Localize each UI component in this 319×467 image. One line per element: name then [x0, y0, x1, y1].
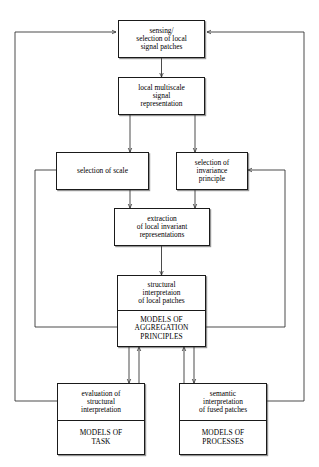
node-sensing-line-3: signal patches	[141, 43, 183, 51]
node-evaluation-task-stack: evaluation of structural interpretation …	[57, 383, 145, 455]
node-aggregation-line-3: PRINCIPLES	[140, 333, 182, 341]
node-sensing-selection: sensing/ selection of local signal patch…	[118, 20, 205, 58]
flowchart-diagram: sensing/ selection of local signal patch…	[0, 0, 319, 467]
feedback-semantic-to-sensing	[207, 32, 304, 401]
node-semantic-line-3: of fused patches	[199, 406, 247, 414]
node-models-task-line-2: TASK	[91, 438, 110, 446]
node-evaluation-structural-interpretation: evaluation of structural interpretation	[57, 383, 145, 421]
node-extraction-line-3: representations	[140, 231, 185, 239]
feedback-aggregation-to-scale	[35, 170, 117, 327]
node-structural-line-3: of local patches	[138, 297, 184, 305]
node-local-multiscale-representation: local multiscale signal representation	[118, 77, 205, 115]
node-models-processes-line-2: PROCESSES	[202, 438, 244, 446]
node-models-of-processes: MODELS OF PROCESSES	[179, 421, 267, 455]
node-extraction-local-invariant: extraction of local invariant representa…	[114, 208, 210, 246]
node-selection-of-scale: selection of scale	[56, 152, 149, 190]
node-semantic-processes-stack: semantic interpretation of fused patches…	[179, 383, 267, 455]
feedback-evaluation-to-sensing	[15, 32, 116, 401]
feedback-aggregation-to-invariance	[206, 170, 285, 327]
node-invariance-line-3: principle	[199, 175, 225, 183]
node-selection-of-invariance-principle: selection of invariance principle	[176, 152, 248, 190]
node-structural-aggregation-stack: structural interpretaion of local patche…	[117, 275, 206, 347]
node-semantic-interpretation-fused-patches: semantic interpretation of fused patches	[179, 383, 267, 421]
node-models-of-task: MODELS OF TASK	[57, 421, 145, 455]
node-models-of-aggregation-principles: MODELS OF AGGREGATION PRINCIPLES	[117, 311, 206, 347]
node-scale-line-1: selection of scale	[77, 167, 128, 175]
node-evaluation-line-3: interpretation	[81, 406, 121, 414]
node-structural-interpretation: structural interpretaion of local patche…	[117, 275, 206, 311]
node-multiscale-line-3: representation	[141, 100, 183, 108]
